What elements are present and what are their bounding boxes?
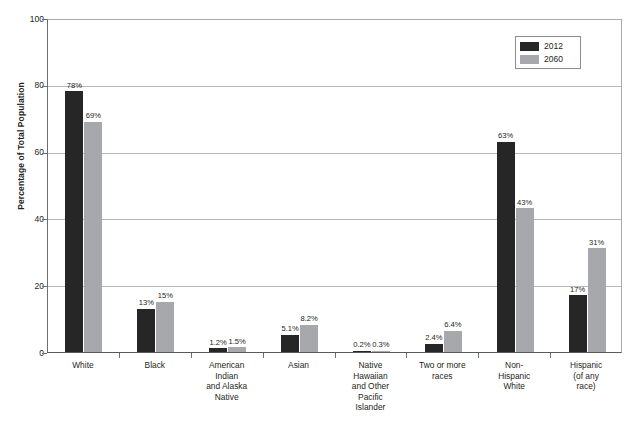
bar-2060-2[interactable] (156, 302, 174, 352)
bar-value-label-2060-1: 69% (77, 112, 109, 120)
bar-2060-4[interactable] (300, 325, 318, 352)
legend-label-2060: 2060 (544, 55, 563, 64)
bar-2012-6[interactable] (425, 344, 443, 352)
y-tick-label-60: 60 (0, 148, 44, 157)
legend-label-2012: 2012 (544, 42, 563, 51)
bar-2012-4[interactable] (281, 335, 299, 352)
bar-value-label-2012-1: 78% (58, 82, 90, 90)
x-tick-mark-7 (550, 353, 551, 358)
bar-2012-3[interactable] (209, 348, 227, 352)
y-tick-mark-0 (42, 353, 47, 354)
x-category-label-line: race) (544, 381, 628, 392)
x-category-label-line: Islander (329, 402, 413, 413)
gridline-20 (48, 286, 621, 287)
x-tick-mark-6 (478, 353, 479, 358)
bar-value-label-2060-8: 31% (581, 239, 613, 247)
bar-value-label-2060-4: 8.2% (293, 315, 325, 323)
x-tick-mark-4 (335, 353, 336, 358)
y-tick-label-0: 0 (0, 349, 44, 358)
x-category-label-line: and Other (329, 381, 413, 392)
bar-2060-7[interactable] (516, 208, 534, 352)
bar-2060-5[interactable] (372, 351, 390, 352)
legend-swatch-2012-icon (520, 42, 539, 51)
x-category-label-8: Hispanic(of anyrace) (544, 360, 628, 392)
x-category-label-line: Native (185, 392, 269, 403)
bar-2060-1[interactable] (84, 122, 102, 352)
gridline-100 (48, 19, 621, 20)
x-tick-mark-5 (406, 353, 407, 358)
bar-2060-6[interactable] (444, 331, 462, 352)
bar-2060-8[interactable] (588, 248, 606, 352)
bar-2012-8[interactable] (569, 295, 587, 352)
bar-value-label-2060-6: 6.4% (437, 321, 469, 329)
gridline-60 (48, 153, 621, 154)
y-tick-label-20: 20 (0, 282, 44, 291)
y-tick-label-100: 100 (0, 15, 44, 24)
gridline-80 (48, 86, 621, 87)
x-tick-mark-2 (191, 353, 192, 358)
bar-2012-5[interactable] (353, 351, 371, 352)
bar-2012-2[interactable] (137, 309, 155, 352)
bar-value-label-2012-7: 63% (490, 132, 522, 140)
legend[interactable]: 2012 2060 (515, 36, 581, 69)
bar-value-label-2060-2: 15% (149, 292, 181, 300)
x-category-label-line: Pacific (329, 392, 413, 403)
y-tick-label-80: 80 (0, 81, 44, 90)
bar-2012-7[interactable] (497, 142, 515, 352)
bar-value-label-2060-5: 0.3% (365, 341, 397, 349)
y-tick-label-40: 40 (0, 215, 44, 224)
bar-chart-figure: Percentage of Total Population 020406080… (0, 0, 639, 423)
x-tick-mark-3 (263, 353, 264, 358)
x-category-label-line: and Alaska (185, 381, 269, 392)
x-category-label-line: Indian (185, 371, 269, 382)
x-category-label-line: (of any (544, 371, 628, 382)
plot-area: 78%69%13%15%1.2%1.5%5.1%8.2%0.2%0.3%2.4%… (47, 19, 622, 353)
bar-value-label-2060-3: 1.5% (221, 338, 253, 346)
legend-swatch-2060-icon (520, 55, 539, 64)
x-tick-mark-1 (119, 353, 120, 358)
legend-item-2060[interactable]: 2060 (520, 53, 576, 66)
gridline-40 (48, 219, 621, 220)
bar-value-label-2060-7: 43% (509, 199, 541, 207)
bar-2060-3[interactable] (228, 347, 246, 352)
bar-2012-1[interactable] (65, 91, 83, 352)
legend-item-2012[interactable]: 2012 (520, 40, 576, 53)
x-category-label-line: Hispanic (544, 360, 628, 371)
